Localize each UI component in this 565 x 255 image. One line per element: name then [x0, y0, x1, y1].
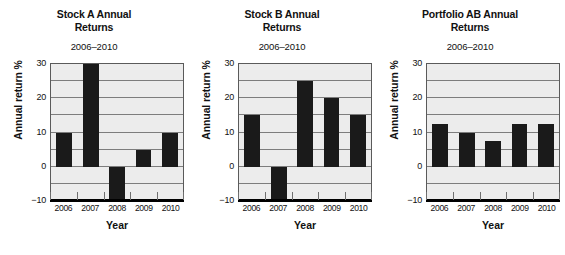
x-tick-label: 2010 [345, 203, 372, 213]
x-tick-label: 2010 [157, 203, 184, 213]
x-tick [265, 192, 266, 200]
x-axis-title: Year [426, 219, 560, 231]
x-tick [238, 192, 239, 200]
y-axis-title: Annual return % [200, 45, 212, 155]
y-tick-label: −10 [400, 196, 422, 205]
chart-title: Stock A AnnualReturns [0, 8, 188, 34]
bar-slot [533, 64, 559, 199]
x-axis-title: Year [50, 219, 184, 231]
x-tick [426, 192, 427, 200]
bar[interactable] [459, 133, 475, 167]
x-tick-label: 2006 [426, 203, 453, 213]
y-tick-label: 30 [400, 59, 422, 68]
y-tick-label: 0 [212, 162, 234, 171]
bar[interactable] [162, 133, 178, 167]
x-tick [77, 192, 78, 200]
x-tick-label: 2006 [50, 203, 77, 213]
x-tick [345, 192, 346, 200]
y-tick-label: 10 [24, 128, 46, 137]
bar-slot [130, 64, 156, 199]
x-axis-title: Year [238, 219, 372, 231]
x-tick [50, 192, 51, 200]
chart-panel-2: Stock B AnnualReturns2006–20103020100−10… [188, 0, 376, 255]
bar[interactable] [136, 150, 152, 167]
y-axis-title: Annual return % [388, 45, 400, 155]
x-tick [559, 192, 560, 200]
y-tick-label: 0 [24, 162, 46, 171]
x-tick [157, 192, 158, 200]
chart-title: Portfolio AB AnnualReturns [376, 8, 564, 34]
x-tick-marks [238, 192, 372, 200]
x-tick [480, 192, 481, 200]
x-tick [506, 192, 507, 200]
bars-layer [51, 64, 183, 199]
x-tick [130, 192, 131, 200]
y-tick-labels: 3020100−10 [22, 63, 46, 200]
bar-slot [77, 64, 103, 199]
bar-slot [480, 64, 506, 199]
bar[interactable] [244, 115, 260, 166]
charts-row: Stock A AnnualReturns2006–20103020100−10… [0, 0, 565, 255]
y-tick-label: 20 [400, 93, 422, 102]
bar[interactable] [83, 64, 99, 167]
x-tick [104, 192, 105, 200]
bar[interactable] [297, 81, 313, 167]
y-tick-label: 10 [400, 128, 422, 137]
y-tick-labels: 3020100−10 [210, 63, 234, 200]
bar-slot [506, 64, 532, 199]
x-tick-label: 2008 [480, 203, 507, 213]
x-tick [453, 192, 454, 200]
bars-layer [239, 64, 371, 199]
x-tick-label: 2006 [238, 203, 265, 213]
x-tick [371, 192, 372, 200]
y-tick-label: 20 [24, 93, 46, 102]
x-tick-label: 2007 [453, 203, 480, 213]
x-tick-label: 2007 [265, 203, 292, 213]
bar-slot [292, 64, 318, 199]
y-tick-label: −10 [212, 196, 234, 205]
y-tick-label: 30 [24, 59, 46, 68]
x-tick-label: 2007 [77, 203, 104, 213]
bar[interactable] [432, 124, 448, 167]
bar-slot [345, 64, 371, 199]
chart-subtitle: 2006–2010 [0, 41, 188, 52]
bar-slot [239, 64, 265, 199]
x-tick-label: 2009 [318, 203, 345, 213]
bar[interactable] [350, 115, 366, 166]
x-tick-label: 2008 [104, 203, 131, 213]
y-axis-title: Annual return % [12, 45, 24, 155]
bar[interactable] [485, 141, 501, 167]
x-tick-labels: 20062007200820092010 [50, 203, 184, 213]
y-tick-labels: 3020100−10 [398, 63, 422, 200]
y-tick-label: 10 [212, 128, 234, 137]
chart-panel-3: Portfolio AB AnnualReturns2006–201030201… [376, 0, 564, 255]
y-tick-label: 0 [400, 162, 422, 171]
bar[interactable] [512, 124, 528, 167]
chart-panel-1: Stock A AnnualReturns2006–20103020100−10… [0, 0, 188, 255]
bar-slot [427, 64, 453, 199]
y-tick-label: 20 [212, 93, 234, 102]
bar[interactable] [538, 124, 554, 167]
x-tick-labels: 20062007200820092010 [238, 203, 372, 213]
chart-subtitle: 2006–2010 [376, 41, 564, 52]
x-tick [183, 192, 184, 200]
chart-title: Stock B AnnualReturns [188, 8, 376, 34]
plot-area [50, 63, 184, 200]
plot-area [238, 63, 372, 200]
x-tick-marks [426, 192, 560, 200]
x-tick [318, 192, 319, 200]
plot-area [426, 63, 560, 200]
bar-slot [318, 64, 344, 199]
bar-slot [157, 64, 183, 199]
bar[interactable] [324, 98, 340, 167]
y-tick-label: 30 [212, 59, 234, 68]
x-tick-label: 2010 [533, 203, 560, 213]
x-tick-label: 2009 [506, 203, 533, 213]
x-tick-marks [50, 192, 184, 200]
bar[interactable] [56, 133, 72, 167]
x-tick-label: 2009 [130, 203, 157, 213]
x-tick [292, 192, 293, 200]
bar-slot [453, 64, 479, 199]
y-tick-label: −10 [24, 196, 46, 205]
x-tick [533, 192, 534, 200]
